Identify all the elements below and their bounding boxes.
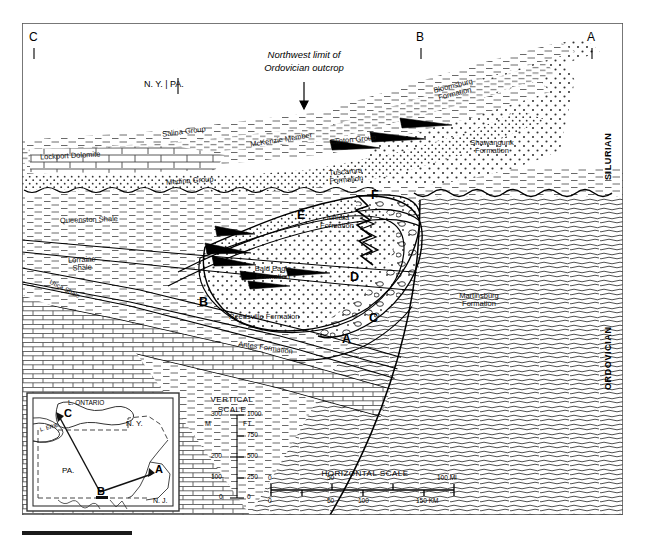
section-letter-c: C — [369, 312, 378, 325]
horizontal-scale-mi-100: 100 MI — [437, 475, 457, 482]
northwest-limit-line1: Northwest limit of — [238, 50, 370, 60]
horizontal-scale-mi-50: 50 — [327, 475, 334, 482]
horizontal-scale-km-50: 50 — [327, 498, 334, 505]
inset-label-lake-ontario: L. ONTARIO — [68, 400, 104, 407]
horizontal-scale-km-150: 150 KM — [416, 498, 438, 505]
top-tick-label-a: A — [587, 31, 595, 44]
horizontal-scale-title: HORIZONTAL SCALE — [290, 470, 440, 478]
formation-label-shawangunk: Shawangunk Formation — [460, 139, 524, 155]
horizontal-scale-mi-0: 0 — [268, 475, 272, 482]
formation-label-martinsburg: Martinsburg Formation — [448, 292, 510, 308]
vertical-scale-ft-0: 0 — [247, 494, 251, 501]
formation-line: Formation — [244, 273, 302, 281]
section-letter-a: A — [342, 333, 351, 346]
formation-label-lorraine-shale: Lorraine Shale — [58, 255, 107, 273]
horizontal-scale-km-0: 0 — [268, 498, 272, 505]
inset-point-label-c: C — [64, 408, 72, 420]
northwest-limit-line2: Ordovician outcrop — [238, 63, 370, 73]
formation-line: Formation — [460, 147, 524, 155]
bottom-rule-bar — [22, 531, 132, 535]
vertical-scale-m-200: 200 — [211, 453, 222, 460]
section-letter-f: F — [371, 189, 379, 202]
era-label-ordovician: ORDOVICIAN — [604, 326, 613, 390]
top-tick-label-c: C — [29, 31, 38, 44]
vertical-scale-m-0: 0 — [219, 494, 223, 501]
vertical-scale-ft-250: 250 — [247, 474, 258, 481]
formation-label-bald-eagle: Bald Eagle Formation — [244, 265, 302, 281]
section-letter-b: B — [199, 296, 208, 309]
vertical-scale-ft-500: 500 — [247, 453, 258, 460]
figure-canvas: C B A N. Y. | PA. Northwest limit of Ord… — [0, 0, 647, 549]
vertical-scale-unit-m: M — [205, 420, 211, 427]
section-letter-d: D — [350, 271, 359, 284]
vertical-scale-m-300: 300 — [211, 411, 222, 418]
vertical-scale-ft-1000: 1000 — [247, 411, 261, 418]
vertical-scale-ft-750: 750 — [247, 432, 258, 439]
formation-label-juniata: Juniata Formation — [310, 214, 364, 230]
inset-label-ny: N. Y. — [126, 420, 143, 428]
formation-label-reedsville: Reedsville Formation — [229, 313, 299, 321]
formation-line: Formation — [310, 222, 364, 230]
horizontal-scale-km-100: 100 — [358, 498, 369, 505]
vertical-scale-m-100: 100 — [211, 474, 222, 481]
inset-point-label-b: B — [97, 486, 105, 498]
cross-section-svg — [0, 0, 647, 549]
state-divider-label: N. Y. | PA. — [144, 80, 184, 89]
inset-label-pa: PA. — [62, 467, 74, 475]
vertical-scale-title-1: VERTICAL — [196, 396, 268, 404]
section-letter-e: E — [297, 209, 305, 222]
vertical-scale-unit-ft: FT — [243, 420, 252, 427]
inset-label-nj: N. J. — [153, 497, 167, 504]
top-tick-label-b: B — [416, 31, 424, 44]
inset-point-label-a: A — [155, 464, 163, 476]
era-label-silurian: SILURIAN — [604, 133, 613, 180]
formation-line: Formation — [448, 300, 510, 308]
